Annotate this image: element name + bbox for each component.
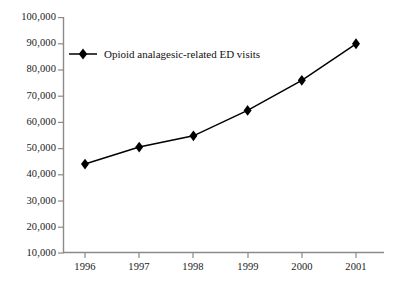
- chart-legend: Opioid analagesic-related ED visits: [68, 46, 260, 62]
- x-tick-label: 2001: [334, 262, 378, 273]
- x-tick-label: 1996: [63, 262, 107, 273]
- x-tick-label: 2000: [280, 262, 324, 273]
- diamond-marker-icon: [68, 47, 98, 61]
- legend-label: Opioid analagesic-related ED visits: [104, 49, 260, 60]
- x-tick-label: 1998: [171, 262, 215, 273]
- data-point-marker: [135, 142, 143, 153]
- y-tick-label: 30,000: [8, 196, 56, 207]
- x-tick-label: 1997: [117, 262, 161, 273]
- y-tick-label: 10,000: [8, 248, 56, 259]
- y-tick-label: 70,000: [8, 91, 56, 102]
- y-tick-label: 100,000: [8, 12, 56, 23]
- data-point-marker: [189, 130, 197, 141]
- data-point-marker: [352, 38, 360, 49]
- data-point-marker: [244, 105, 252, 116]
- data-point-marker: [298, 75, 306, 86]
- y-tick-label: 50,000: [8, 143, 56, 154]
- data-point-marker: [81, 159, 89, 170]
- line-chart: 100,000 90,000 80,000 70,000 60,000 50,0…: [0, 0, 400, 288]
- chart-plot-area: [0, 0, 400, 288]
- x-tick-label: 1999: [226, 262, 270, 273]
- y-tick-label: 90,000: [8, 38, 56, 49]
- x-axis-ticks: [85, 253, 356, 259]
- y-tick-label: 20,000: [8, 222, 56, 233]
- y-tick-label: 40,000: [8, 169, 56, 180]
- y-tick-label: 60,000: [8, 117, 56, 128]
- y-tick-label: 80,000: [8, 64, 56, 75]
